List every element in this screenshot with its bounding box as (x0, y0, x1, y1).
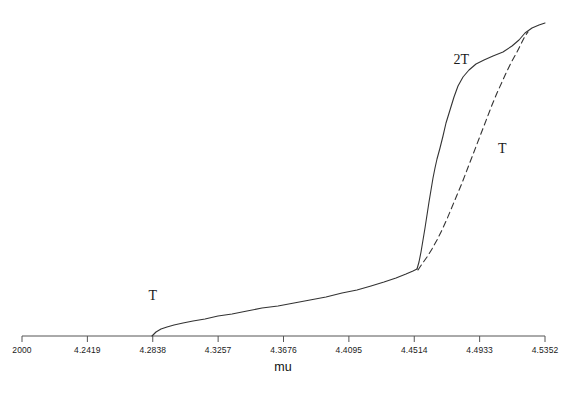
plot-canvas (0, 0, 581, 398)
x-tick-label: 4.3257 (205, 345, 232, 355)
x-axis (22, 336, 545, 342)
curve-label-t: T (498, 141, 507, 157)
curve-t (152, 269, 417, 336)
x-tick-label: 4.5352 (532, 345, 559, 355)
chart-figure: 20004.24194.28384.32574.36764.40954.4514… (0, 0, 581, 398)
curve-2t (417, 23, 545, 269)
curve-t-dashed (418, 32, 528, 270)
x-tick-label: 2000 (12, 345, 31, 355)
curve-label-t: T (148, 288, 157, 304)
x-tick-label: 4.2419 (74, 345, 101, 355)
curve-group (152, 23, 545, 336)
x-tick-label: 4.4514 (401, 345, 428, 355)
curve-label-2t: 2T (454, 52, 470, 68)
x-tick-label: 4.4095 (336, 345, 363, 355)
x-tick-label: 4.4933 (466, 345, 493, 355)
x-tick-label: 4.2838 (139, 345, 166, 355)
x-tick-label: 4.3676 (270, 345, 297, 355)
x-axis-title: mu (274, 360, 291, 374)
